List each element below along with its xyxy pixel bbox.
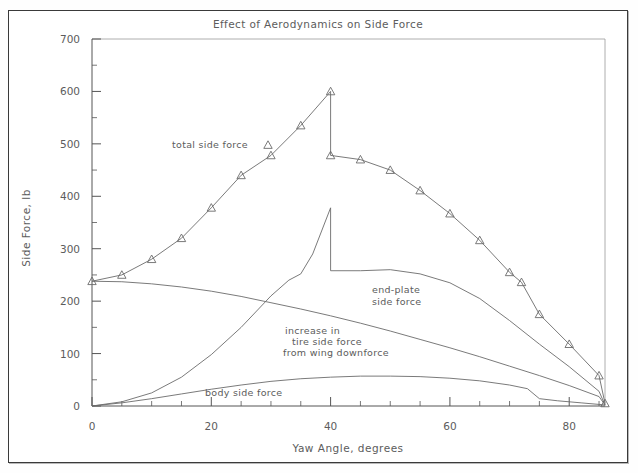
y-tick-label: 400: [60, 190, 80, 202]
series-line-3: [92, 376, 605, 406]
x-tick-label: 80: [563, 420, 576, 432]
annotation-body-side-force: body side force: [205, 387, 282, 398]
figure-page: 0100200300400500600700020406080 Effect o…: [0, 0, 638, 473]
x-axis-label: Yaw Angle, degrees: [291, 442, 403, 454]
y-tick-label: 0: [73, 400, 80, 412]
y-tick-label: 300: [60, 243, 80, 255]
chart-canvas: 0100200300400500600700020406080 Effect o…: [0, 0, 638, 473]
annotation-end-plate-line2: side force: [372, 296, 421, 307]
y-tick-label: 200: [60, 295, 80, 307]
y-tick-label: 500: [60, 138, 80, 150]
chart-title: Effect of Aerodynamics on Side Force: [213, 18, 423, 30]
x-tick-label: 0: [89, 420, 96, 432]
legend-triangle-icon: [264, 141, 272, 149]
x-tick-label: 60: [443, 420, 456, 432]
annotation-end-plate-line1: end-plate: [372, 284, 420, 295]
y-tick-label: 700: [60, 33, 80, 45]
annotation-increase-line3: from wing downforce: [283, 347, 389, 358]
series-group: [88, 87, 609, 407]
annotation-increase-line1: increase in: [285, 325, 340, 336]
x-tick-label: 20: [205, 420, 218, 432]
y-tick-label: 600: [60, 85, 80, 97]
x-tick-label: 40: [324, 420, 337, 432]
y-tick-label: 100: [60, 348, 80, 360]
annotation-total-side-force: total side force: [172, 139, 248, 150]
annotation-increase-line2: tire side force: [292, 336, 362, 347]
axes-group: 0100200300400500600700020406080: [60, 33, 605, 432]
y-axis-label: Side Force, lb: [20, 189, 32, 267]
